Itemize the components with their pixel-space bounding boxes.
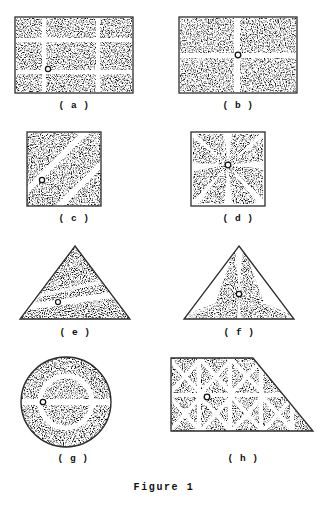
panel-h-label: ( h ) xyxy=(168,453,318,464)
panel-g-label: ( g ) xyxy=(18,453,128,464)
panel-a-marker xyxy=(45,66,50,71)
figure-panel-h: ( h ) xyxy=(168,355,318,473)
panel-c-marker xyxy=(39,177,44,182)
figure-panel-b: ( b ) xyxy=(178,16,298,118)
panel-f-artwork xyxy=(180,243,298,323)
panel-b-artwork xyxy=(178,16,298,94)
panel-g-band xyxy=(18,399,114,405)
panel-d-marker xyxy=(225,162,231,168)
figure-panel-a: ( a ) xyxy=(14,16,134,118)
panel-c-bands xyxy=(26,131,102,207)
panel-c-label: ( c ) xyxy=(26,213,122,224)
panel-d-sectors xyxy=(193,134,263,204)
panel-a-cells xyxy=(16,18,132,92)
panel-d-artwork xyxy=(190,131,266,207)
panel-e-marker xyxy=(56,300,61,305)
panel-a-artwork xyxy=(14,16,134,94)
panel-h-artwork xyxy=(168,355,318,447)
figure-panel-d: ( d ) xyxy=(190,131,286,231)
figure-caption: Figure 1 xyxy=(0,482,328,493)
figure-panel-e: ( e ) xyxy=(16,243,134,345)
panel-d-label: ( d ) xyxy=(190,213,286,224)
panel-g-artwork xyxy=(18,355,114,449)
panel-a-label: ( a ) xyxy=(14,100,134,111)
panel-f-marker xyxy=(236,291,241,296)
figure-panel-f: ( f ) xyxy=(180,243,298,345)
panel-c-artwork xyxy=(26,131,102,207)
panel-e-artwork xyxy=(16,243,134,323)
panel-f-outline xyxy=(184,246,294,319)
panel-b-marker xyxy=(235,52,241,58)
panel-b-label: ( b ) xyxy=(178,100,298,111)
panel-e-regions xyxy=(16,246,134,319)
figure-panel-c: ( c ) xyxy=(26,131,122,231)
panel-e-label: ( e ) xyxy=(16,327,134,338)
figure-sheet: ( a ) ( b ) xyxy=(0,0,328,505)
panel-g-marker xyxy=(40,399,45,404)
panel-h-cells xyxy=(168,355,318,447)
panel-f-sectors xyxy=(184,246,294,319)
panel-h-marker xyxy=(204,394,210,400)
figure-panel-g: ( g ) xyxy=(18,355,128,473)
panel-g-regions xyxy=(18,357,114,447)
panel-f-label: ( f ) xyxy=(180,327,298,338)
